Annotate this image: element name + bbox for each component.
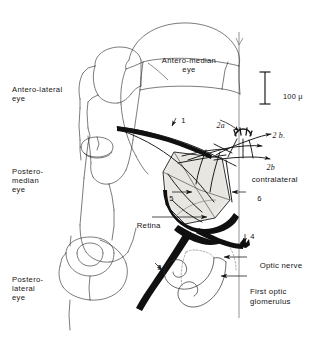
label-first-optic-glomerulus: First optic glomerulus [250,269,291,324]
first-optic-glomerulus-text: First optic glomerulus [250,287,291,305]
label-number-1: 1 [172,108,186,135]
label-number-5: 5 [160,186,174,213]
scale-bar-label: 100 μ [274,84,303,110]
label-antero-median-eye: Antero-median eye [150,39,228,93]
label-number-3: 3 [148,255,162,282]
postero-median-eye-outline [81,137,113,157]
label-number-6: 6 [248,186,262,213]
postero-median-eye-text: Postero- median eye [12,168,44,195]
retina-text: Retina [137,221,161,230]
antero-lateral-eye-text: Antero-lateral eye [12,86,63,104]
label-antero-lateral-eye: Antero-lateral eye [12,68,63,122]
label-postero-lateral-eye: Postero- lateral eye [12,258,44,321]
label-number-2b-dot: 2 b. [264,122,285,150]
postero-lateral-eye-outline [66,237,114,253]
scale-bar-value: 100 μ [283,92,303,101]
label-postero-median-eye: Postero- median eye [12,150,44,213]
label-number-2b: 2b [258,154,275,182]
postero-lateral-eye-text: Postero- lateral eye [12,276,44,303]
label-number-2a: 2a [208,112,225,140]
antero-median-eye-text: Antero-median eye [150,57,228,75]
label-number-4: 4 [241,224,255,251]
scale-bar [260,72,271,104]
label-retina: Retina [127,212,161,240]
anatomical-figure: Antero-lateral eye Antero-median eye Pos… [0,0,312,345]
antero-lateral-eye-outline [95,47,141,66]
